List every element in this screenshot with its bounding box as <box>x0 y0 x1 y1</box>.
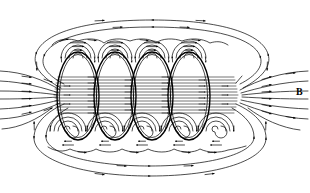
top-wire-field-loops <box>52 39 228 62</box>
field-line-canvas <box>0 0 310 193</box>
exterior-field-lines-left <box>0 71 60 129</box>
bottom-wire-field-spirals <box>48 113 246 153</box>
b-label-leader <box>236 76 242 83</box>
exterior-field-lines-right <box>240 71 308 130</box>
magnetic-field-diagram: B <box>0 0 310 193</box>
b-field-label: B <box>296 87 303 97</box>
